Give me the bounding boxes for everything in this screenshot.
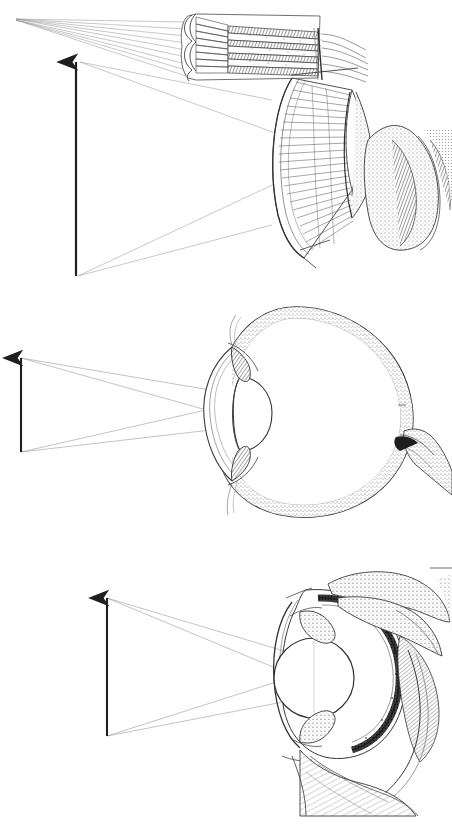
ray-base-lower: [21, 428, 228, 452]
vertebrate-eyeball: [204, 307, 452, 517]
rhabdom-tubes: [228, 26, 318, 76]
spherical-lens: [274, 638, 354, 718]
cephalopod-eye-diagram: [0, 550, 452, 824]
ray-bundle-3: [16, 20, 186, 64]
panel-compound-eye: [0, 0, 452, 285]
ray-bundle-2: [16, 19, 186, 50]
vertebrate-eye-diagram: [0, 285, 452, 553]
panel-vertebrate-eye: [0, 285, 452, 550]
ray-tip-lower: [21, 358, 228, 416]
compound-eye-whole: [273, 68, 452, 268]
panel-cephalopod-eye: [0, 550, 452, 824]
cephalopod-eyeball: [274, 568, 452, 816]
ommatidia-array: [181, 14, 322, 81]
ray-bundle-4: [16, 20, 186, 76]
ray-base-upper: [21, 405, 228, 452]
optic-lobe: [364, 126, 452, 251]
ray-tip-upper: [21, 358, 228, 393]
optic-fibre-lines: [322, 34, 368, 82]
compound-eye-diagram: [0, 0, 452, 290]
eye-optics-figure: Apposition compound eye Insect / arthrop…: [0, 0, 452, 824]
